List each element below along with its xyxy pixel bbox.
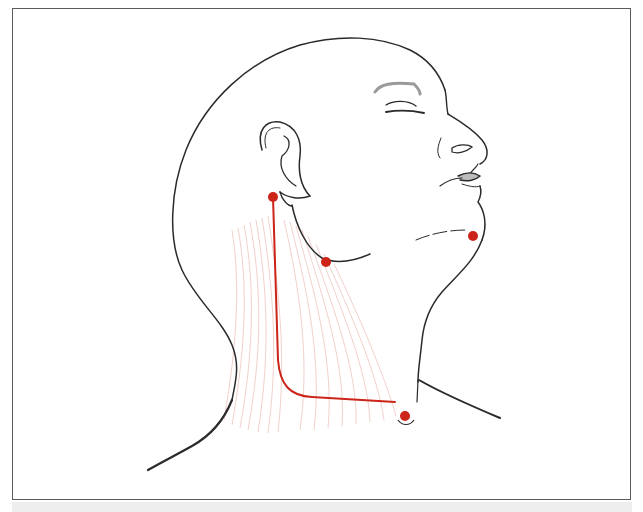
landmark-dot-sternal-notch [400, 411, 410, 421]
brow [375, 83, 420, 94]
head-neck-illustration [0, 0, 643, 512]
landmark-dot-chin [468, 231, 478, 241]
head-outline [148, 38, 500, 470]
landmark-dot-below-ear [268, 192, 278, 202]
eye [375, 83, 424, 113]
ear [260, 122, 310, 206]
illustration-page [0, 0, 643, 512]
landmark-dot-jaw-angle [321, 257, 331, 267]
